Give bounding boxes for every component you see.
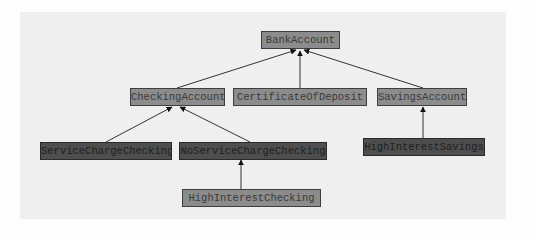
class-node-high-interest-checking: HighInterestChecking: [182, 189, 321, 207]
edge-nscc-to-checking: [180, 107, 250, 142]
class-node-high-interest-savings: HighInterestSavings: [363, 138, 485, 156]
class-node-no-service-charge-checking: NoServiceChargeChecking: [179, 142, 327, 160]
class-node-certificate-of-deposit: CertificateOfDeposit: [233, 88, 367, 106]
class-node-bank-account: BankAccount: [261, 31, 340, 49]
edge-scc-to-checking: [106, 107, 172, 142]
edge-savings-to-bank: [304, 50, 423, 88]
edge-checking-to-bank: [177, 50, 296, 88]
class-node-savings-account: SavingsAccount: [377, 88, 467, 106]
class-node-checking-account: CheckingAccount: [130, 88, 225, 106]
class-node-service-charge-checking: ServiceChargeChecking: [40, 142, 172, 160]
